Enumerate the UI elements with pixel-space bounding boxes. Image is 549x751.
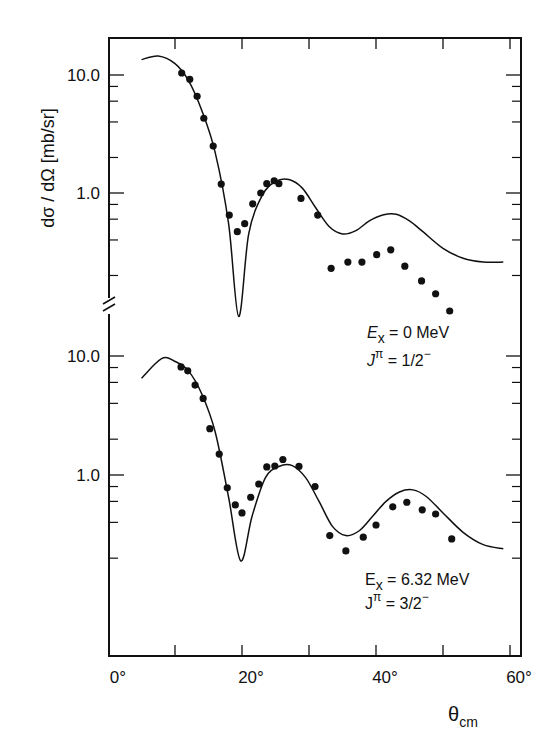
lower-panel-annotation: Ex = 6.32 MeV Jπ = 3/2− [365,571,470,612]
upper-data-point [314,211,321,218]
upper-data-point [263,180,270,187]
svg-text:Jπ = 1/2−: Jπ = 1/2− [366,347,431,369]
upper-data-point [418,277,425,284]
lower-data-point [263,463,270,470]
lower-data-point [448,535,455,542]
svg-text:Ex = 0 MeV: Ex = 0 MeV [367,324,449,346]
lower-data-point [206,425,213,432]
lower-data-point [271,462,278,469]
upper-data-point [257,189,264,196]
upper-data-point [344,258,351,265]
lower-data-point [403,499,410,506]
upper-data-point [200,115,207,122]
upper-data-point [234,228,241,235]
lower-data-point [279,456,286,463]
axis-break-left [103,297,115,314]
upper-data-point [218,180,225,187]
lower-data-point [255,480,262,487]
upper-data-point [226,211,233,218]
lower-data-point [432,510,439,517]
lower-data-point [177,363,184,370]
upper-data-point [401,263,408,270]
svg-text:Jπ = 3/2−: Jπ = 3/2− [365,590,429,612]
upper-data-point [275,180,282,187]
lower-data-point [247,494,254,501]
xtick-20: 20° [238,668,264,687]
upper-data-point [249,200,256,207]
lower-data-point [295,463,302,470]
lower-data-point [216,450,223,457]
upper-data-point [297,195,304,202]
xtick-40: 40° [372,668,398,687]
data-points [177,69,455,554]
x-axis-label: θcm [448,703,478,730]
lower-data-point [326,532,333,539]
axis-ticks [109,38,521,656]
lower-data-point [389,503,396,510]
lower-data-point [360,534,367,541]
xtick-0: 0° [110,668,126,687]
lower-data-point [419,506,426,513]
upper-data-point [178,69,185,76]
lower-data-point [184,367,191,374]
upper-data-point [241,220,248,227]
cross-section-figure: 10.0 1.0 10.0 1.0 0° 20° 40° 60° θcm dσ … [0,0,549,751]
upper-data-point [210,142,217,149]
y-axis-label: dσ / dΩ [mb/sr] [38,108,58,228]
lower-data-point [372,521,379,528]
lower-data-point [192,381,199,388]
plot-frame [109,38,521,656]
upper-data-point [387,246,394,253]
upper-data-point [194,93,201,100]
lower-data-point [224,484,231,491]
upper-data-point [432,290,439,297]
lower-ytick-10: 10.0 [67,347,100,366]
upper-data-point [328,265,335,272]
lower-data-point [238,509,245,516]
upper-data-point [358,258,365,265]
xtick-60: 60° [506,668,532,687]
lower-data-point [311,483,318,490]
lower-data-point [200,395,207,402]
lower-ytick-1: 1.0 [76,466,100,485]
upper-data-point [446,307,453,314]
upper-data-point [186,76,193,83]
upper-data-point [373,251,380,258]
lower-data-point [342,547,349,554]
upper-panel-annotation: Ex = 0 MeV Jπ = 1/2− [366,324,449,369]
lower-data-point [232,501,239,508]
upper-ytick-10: 10.0 [67,66,100,85]
upper-ytick-1: 1.0 [76,184,100,203]
